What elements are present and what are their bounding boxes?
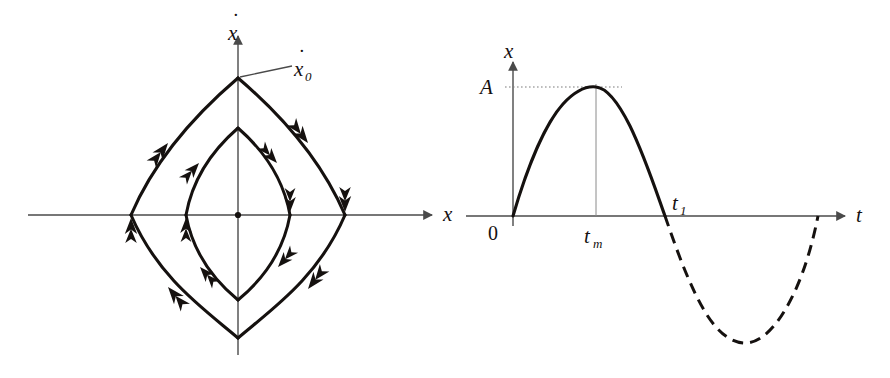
x0-label-dot: ̇ [300, 49, 303, 52]
x0-label-base: x [293, 57, 304, 81]
sine-curve-dashed [665, 216, 818, 343]
t1-label-base: t [672, 191, 679, 215]
x0-label: x ̇ 0 [293, 49, 312, 84]
sine-curve-solid [513, 87, 665, 216]
x0-label-subscript: 0 [305, 69, 312, 84]
phase-plane-diagram: x x ̇ x ̇ 0 [28, 13, 453, 355]
origin-dot [235, 212, 241, 218]
x0-leader-line [240, 66, 292, 77]
phase-xdot-axis-label: x ̇ [227, 13, 238, 45]
t1-label-subscript: 1 [680, 203, 687, 218]
tm-label-subscript: m [593, 236, 602, 251]
amplitude-label: A [478, 75, 493, 99]
phase-x-axis-label: x [442, 202, 453, 226]
tm-label-base: t [584, 224, 591, 248]
t1-label: t 1 [672, 191, 687, 218]
tm-label: t m [584, 224, 602, 251]
displacement-axis-label: x [503, 39, 514, 63]
phase-xdot-axis-label-dot: ̇ [234, 13, 237, 16]
origin-label: 0 [488, 222, 498, 244]
physics-figure: x x ̇ x ̇ 0 t x 0 A t m [0, 0, 890, 378]
time-axis-label: t [856, 203, 863, 227]
phase-xdot-axis-label-base: x [227, 21, 238, 45]
displacement-time-plot: t x 0 A t m t 1 [466, 39, 863, 343]
